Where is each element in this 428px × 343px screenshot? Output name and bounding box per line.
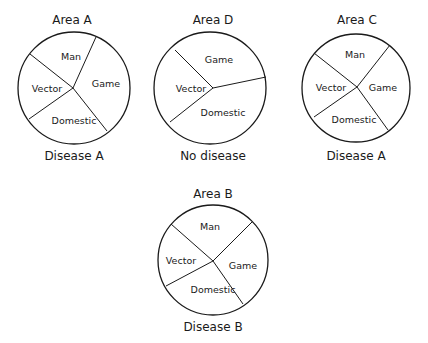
slice-label-game: Game [229,260,257,271]
spoke [213,77,266,88]
slice-label-man: Man [345,49,365,60]
pie-area-d: Area D Game Vector Domestic No disease [154,13,266,163]
area-a-title: Area A [52,13,92,27]
slice-label-man: Man [200,221,220,232]
area-b-title: Area B [193,187,233,201]
slice-label-game: Game [92,78,120,89]
slice-label-game: Game [205,54,233,65]
area-b-caption: Disease B [183,320,242,334]
slice-label-vector: Vector [316,82,346,93]
pie-area-c: Area C Man Vector Game Domestic Disease … [302,13,410,163]
slice-label-vector: Vector [166,255,196,266]
slice-label-domestic: Domestic [332,114,377,125]
area-c-title: Area C [337,13,377,27]
pie-area-b: Area B Man Vector Game Domestic Disease … [158,187,268,334]
slice-label-man: Man [61,51,81,62]
disease-area-diagram: Area A Man Game Vector Domestic Disease … [0,0,428,343]
slice-label-domestic: Domestic [191,284,236,295]
slice-label-domestic: Domestic [201,107,246,118]
slice-label-domestic: Domestic [52,115,97,126]
slice-label-game: Game [369,82,397,93]
area-d-title: Area D [193,13,234,27]
area-a-caption: Disease A [44,149,104,163]
slice-label-vector: Vector [32,83,62,94]
area-d-caption: No disease [180,149,246,163]
area-c-caption: Disease A [326,149,386,163]
pie-area-a: Area A Man Game Vector Domestic Disease … [18,13,130,163]
slice-label-vector: Vector [176,83,206,94]
area-d-circle [154,32,266,144]
